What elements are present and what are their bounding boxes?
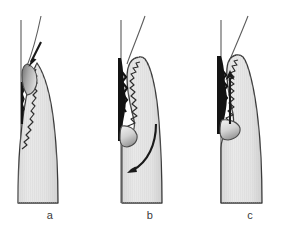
insertion-arrow bbox=[29, 42, 42, 67]
panel-a-illustration bbox=[0, 0, 100, 205]
panel-c-illustration bbox=[200, 0, 300, 205]
figure-root: a bbox=[0, 0, 300, 238]
panel-a: a bbox=[0, 0, 100, 238]
panel-b: b bbox=[100, 0, 200, 238]
panel-a-label: a bbox=[0, 208, 100, 222]
panel-c: c bbox=[200, 0, 300, 238]
panel-c-label: c bbox=[200, 208, 300, 222]
panel-b-illustration bbox=[100, 0, 200, 205]
panel-b-label: b bbox=[100, 208, 200, 222]
